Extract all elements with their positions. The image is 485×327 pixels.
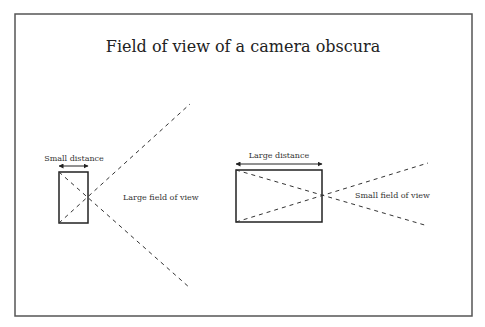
camera-obscura-diagram: Field of view of a camera obscura Small … <box>0 0 485 327</box>
diagram-frame <box>15 14 472 316</box>
diagram-title: Field of view of a camera obscura <box>106 37 381 56</box>
large-distance-label: Large distance <box>249 151 310 160</box>
small-distance-label: Small distance <box>44 154 104 163</box>
left-ray-upper <box>59 104 190 223</box>
small-fov-label: Small field of view <box>355 191 430 200</box>
small-camera-box <box>59 172 88 223</box>
large-camera-box <box>236 170 322 222</box>
large-fov-label: Large field of view <box>123 193 199 202</box>
left-camera-group: Small distance Large field of view <box>44 104 199 288</box>
right-camera-group: Large distance Small field of view <box>236 151 430 226</box>
left-ray-lower <box>59 172 190 288</box>
